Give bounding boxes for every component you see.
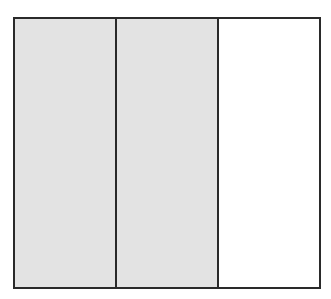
bar-part-2-shaded <box>115 19 217 287</box>
bar-part-1-shaded <box>15 19 115 287</box>
fraction-bar <box>13 17 321 289</box>
bar-part-3-unshaded <box>217 19 319 287</box>
